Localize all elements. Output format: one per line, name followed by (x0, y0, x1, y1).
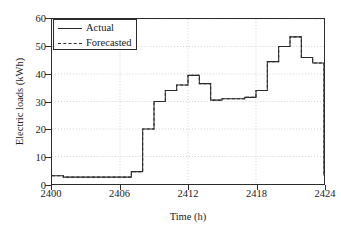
chart-figure: Electric loads (kWh) 0102030405060 24002… (0, 0, 341, 234)
y-tick-label: 10 (6, 152, 46, 163)
x-axis-label: Time (h) (51, 210, 325, 223)
legend-entry-forecasted: Forecasted (54, 36, 136, 50)
series-line-forecasted (52, 37, 324, 177)
chart-legend: Actual Forecasted (53, 19, 137, 50)
x-tick-mark (120, 185, 121, 190)
x-tick-label: 2424 (295, 188, 341, 200)
legend-entry-actual: Actual (54, 21, 136, 35)
y-tick-label: 20 (6, 124, 46, 135)
legend-label-forecasted: Forecasted (86, 37, 131, 49)
legend-label-actual: Actual (86, 22, 114, 34)
x-tick-mark (188, 185, 189, 190)
x-tick-mark (257, 185, 258, 190)
x-tick-mark (51, 185, 52, 190)
legend-line-solid-icon (58, 23, 82, 33)
y-tick-label: 50 (6, 41, 46, 52)
y-tick-label: 60 (6, 13, 46, 24)
series-line-actual (52, 37, 324, 177)
x-tick-mark (325, 185, 326, 190)
y-tick-label: 40 (6, 69, 46, 80)
legend-line-dashed-icon (58, 38, 82, 48)
y-tick-label: 30 (6, 97, 46, 108)
